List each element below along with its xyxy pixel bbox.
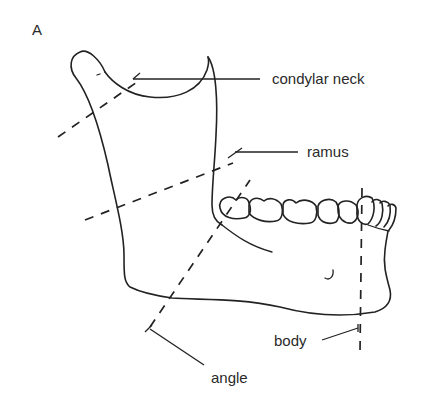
label-body: body xyxy=(274,332,307,349)
label-condylar-neck: condylar neck xyxy=(272,70,365,87)
label-angle-group: angle xyxy=(145,325,248,386)
body-division xyxy=(360,188,362,352)
angle-division xyxy=(150,180,250,327)
label-ramus: ramus xyxy=(307,143,349,160)
teeth xyxy=(220,196,396,231)
mandible-outline xyxy=(71,51,390,315)
label-condylar-neck-group: condylar neck xyxy=(133,70,365,87)
panel-label: A xyxy=(32,21,42,38)
label-body-group: body xyxy=(274,324,358,349)
mandible-diagram: A condylar neck xyxy=(0,0,423,419)
label-ramus-group: ramus xyxy=(228,143,349,160)
ramus-division xyxy=(85,163,233,220)
label-angle: angle xyxy=(211,369,248,386)
